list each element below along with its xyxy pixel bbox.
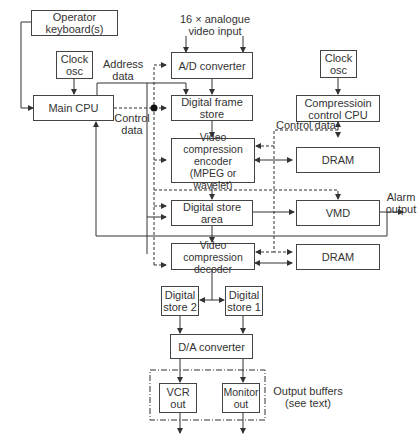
control-data-left-label: Control data [114, 112, 150, 136]
control-data-right-label: Control data [276, 119, 336, 131]
digital-frame-store-block: Digital frame store [171, 95, 253, 121]
clock-osc-left-block: Clock osc [56, 51, 93, 79]
main-cpu-block: Main CPU [33, 95, 114, 121]
dram-bottom-block: DRAM [296, 244, 380, 270]
video-compression-decoder-block: Video compression decoder [171, 243, 255, 270]
dram-top-block: DRAM [296, 147, 380, 173]
compression-control-cpu-block: Compressioin control CPU [296, 95, 380, 122]
vmd-block: VMD [296, 200, 380, 226]
digital-store-area-block: Digital store area [171, 200, 253, 226]
operator-keyboard-block: Operator keyboard(s) [31, 10, 118, 36]
output-buffers-label: Output buffers (see text) [268, 385, 348, 409]
vcr-out-block: VCR out [159, 383, 197, 413]
address-data-label: Address data [103, 58, 143, 82]
digital-store-2-block: Digital store 2 [161, 286, 199, 316]
ad-converter-block: A/D converter [171, 52, 253, 79]
digital-store-1-block: Digital store 1 [225, 286, 263, 316]
monitor-out-block: Monitor out [222, 383, 260, 413]
video-compression-encoder-block: Video compression encoder (MPEG or wavel… [171, 138, 255, 183]
clock-osc-right-block: Clock osc [320, 50, 357, 78]
da-converter-block: D/A converter [170, 334, 253, 359]
video-input-label: 16 × analogue video input [170, 13, 260, 37]
alarm-output-label: Alarm output [382, 191, 420, 215]
